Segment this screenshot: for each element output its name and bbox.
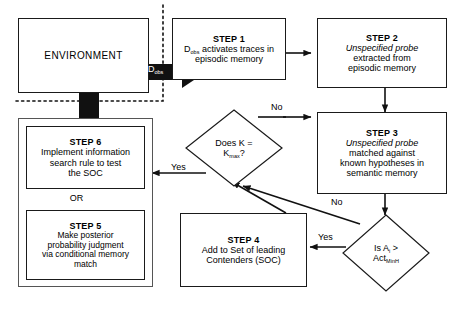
node-environment-label: ENVIRONMENT <box>41 50 125 61</box>
node-step3-line3: known hypotheses in <box>340 158 424 168</box>
node-step3[interactable]: STEP 3 Unspecified probe matched against… <box>317 112 447 194</box>
node-step6[interactable]: STEP 6 Implement information search rule… <box>26 126 145 189</box>
node-step3-italic-line: Unspecified probe <box>346 138 419 148</box>
node-step3-body: Unspecified probe matched against known … <box>337 138 427 178</box>
node-step5[interactable]: STEP 5 Make posterior probability judgme… <box>26 210 145 280</box>
node-step3-line4: semantic memory <box>346 168 417 178</box>
node-step6-title: STEP 6 <box>69 137 101 147</box>
node-step2-italic-line: Unspecified probe <box>346 43 419 53</box>
node-step1-line2: episodic memory <box>195 54 263 64</box>
node-step5-line4: via conditional memory <box>42 249 129 259</box>
decision-activation-text: Is Ai > ActMinH <box>341 213 431 293</box>
node-step5-line3: probability judgment <box>47 240 123 250</box>
node-step1-line1: Dobs activates traces in <box>184 44 274 54</box>
node-step3-line2: matched against <box>349 148 415 158</box>
edge-label-decision-k-no: No <box>270 103 284 112</box>
block-arrow-dobs-subscript: obs <box>155 69 164 75</box>
node-step2-title: STEP 2 <box>366 33 398 43</box>
decision-k-line1: Does K = <box>215 138 252 148</box>
edge-label-decision-activation-yes: Yes <box>317 233 334 242</box>
decision-activation-line1: Is Ai > <box>374 243 398 253</box>
node-step4-body: Add to Set of leading Contenders (SOC) <box>199 245 289 265</box>
node-step1-subscript: obs <box>191 49 200 55</box>
edge-label-decision-k-yes: Yes <box>170 163 187 172</box>
node-step2-line2: extracted from <box>353 53 411 63</box>
node-step6-line3: search rule to test <box>50 158 122 168</box>
node-step1-title: STEP 1 <box>213 34 245 44</box>
decision-k-subscript: max <box>229 153 239 159</box>
edge-label-decision-activation-no: No <box>330 198 344 207</box>
flowchart-canvas: STEP 4 (left) --> diagonal up-left into … <box>0 0 463 309</box>
node-step4[interactable]: STEP 4 Add to Set of leading Contenders … <box>180 213 307 287</box>
node-step2[interactable]: STEP 2 Unspecified probe extracted from … <box>317 18 447 88</box>
node-step6-line2: Implement information <box>41 147 130 157</box>
node-step4-line3: Contenders (SOC) <box>206 255 281 265</box>
node-step6-line4: the SOC <box>68 168 103 178</box>
node-step4-line2: Add to Set of leading <box>202 245 286 255</box>
node-step6-body: Implement information search rule to tes… <box>38 147 133 177</box>
node-step5-line5: match <box>74 259 97 269</box>
decision-activation-sub-minh: MinH <box>386 258 399 264</box>
node-step1-body: Dobs activates traces in episodic memory <box>181 44 277 64</box>
block-arrow-dobs-label: Dobs <box>148 64 163 74</box>
node-decision-activation[interactable]: Is Ai > ActMinH <box>341 213 431 293</box>
node-decision-k[interactable]: Does K = Kmax? <box>184 108 284 188</box>
node-environment[interactable]: ENVIRONMENT <box>18 18 149 93</box>
node-step5-body: Make posterior probability judgment via … <box>39 231 132 269</box>
node-step1[interactable]: STEP 1 Dobs activates traces in episodic… <box>172 18 286 80</box>
node-step5-line2: Make posterior <box>57 230 113 240</box>
or-connector-label: OR <box>0 193 153 203</box>
node-step4-title: STEP 4 <box>227 235 259 245</box>
node-step2-body: Unspecified probe extracted from episodi… <box>343 43 422 73</box>
decision-k-line2: Kmax? <box>223 148 244 158</box>
node-step3-title: STEP 3 <box>366 128 398 138</box>
decision-k-text: Does K = Kmax? <box>184 108 284 188</box>
node-step2-line3: episodic memory <box>348 63 416 73</box>
decision-activation-line2: ActMinH <box>373 253 399 263</box>
